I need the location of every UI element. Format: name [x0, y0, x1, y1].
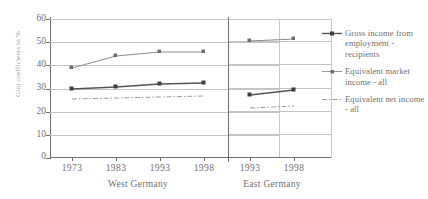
legend-marker-gross-income-icon — [322, 28, 342, 39]
panel-label-east-germany: East Germany — [202, 179, 342, 189]
x-tick-east-1993: 1993 — [228, 163, 272, 173]
legend-marker-market-income-icon — [322, 66, 342, 77]
x-tickmark-1 — [72, 157, 73, 161]
x-tick-west-1993: 1993 — [138, 163, 182, 173]
legend-item-gross-income[interactable]: Gross income from employment - recipient… — [322, 28, 428, 59]
series-net-income-west — [72, 96, 204, 99]
x-tick-west-1973: 1973 — [50, 163, 94, 173]
chart-figure: Gini coefficients in % 60 50 40 30 20 10… — [0, 0, 428, 199]
series-gross-income-west — [72, 83, 204, 89]
x-tick-west-1983: 1983 — [94, 163, 138, 173]
legend-item-market-income[interactable]: Equivalent market income - all — [322, 66, 428, 87]
series-net-income-east — [250, 106, 294, 108]
x-tickmark-3 — [160, 157, 161, 161]
panel-label-west-germany: West Germany — [68, 179, 208, 189]
legend-item-net-income[interactable]: Equivalent net income - all — [322, 94, 428, 115]
markers-market-income — [70, 37, 296, 70]
x-tickmark-5 — [250, 157, 251, 161]
x-tickmark-4 — [204, 157, 205, 161]
x-tick-east-1998: 1998 — [272, 163, 316, 173]
chart-legend: Gross income from employment - recipient… — [322, 28, 428, 122]
series-gross-income-east — [250, 90, 294, 95]
x-tick-west-1998: 1998 — [182, 163, 226, 173]
series-market-income-east — [250, 39, 294, 41]
x-tickmark-6 — [294, 157, 295, 161]
series-market-income-west — [72, 52, 204, 68]
legend-marker-net-income-icon — [322, 94, 342, 105]
x-tickmark-2 — [116, 157, 117, 161]
legend-label-market-income: Equivalent market income - all — [345, 66, 425, 87]
legend-label-net-income: Equivalent net income - all — [345, 94, 425, 115]
legend-label-gross-income: Gross income from employment - recipient… — [345, 28, 425, 59]
